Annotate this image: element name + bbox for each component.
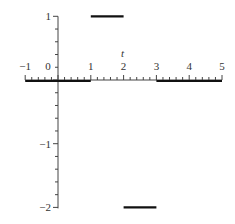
x-tick-label: 2 (121, 60, 127, 72)
tick-labels: −10123451−1−2t (19, 10, 225, 213)
x-axis-title: t (121, 47, 125, 59)
x-tick-label: 4 (186, 60, 192, 72)
axes (25, 16, 222, 208)
x-tick-label: 3 (154, 60, 160, 72)
x-tick-label: 0 (45, 60, 51, 72)
y-tick-label: −2 (39, 201, 51, 213)
step-function-plot: −10123451−1−2t (0, 0, 235, 224)
x-tick-label: 5 (219, 60, 225, 72)
data-series (25, 16, 222, 207)
x-tick-label: 1 (88, 60, 94, 72)
y-tick-label: −1 (39, 138, 51, 150)
x-tick-label: −1 (19, 60, 31, 72)
y-tick-label: 1 (46, 10, 52, 22)
